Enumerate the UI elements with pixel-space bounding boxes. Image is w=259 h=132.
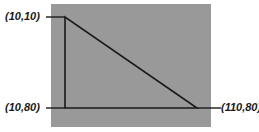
vertex-label-top-left: (10,10) bbox=[5, 11, 40, 22]
diagram-canvas: (10,10) (10,80) (110,80) bbox=[0, 0, 259, 132]
vertex-label-bottom-left: (10,80) bbox=[5, 102, 40, 113]
vertex-label-bottom-right: (110,80) bbox=[221, 102, 259, 113]
